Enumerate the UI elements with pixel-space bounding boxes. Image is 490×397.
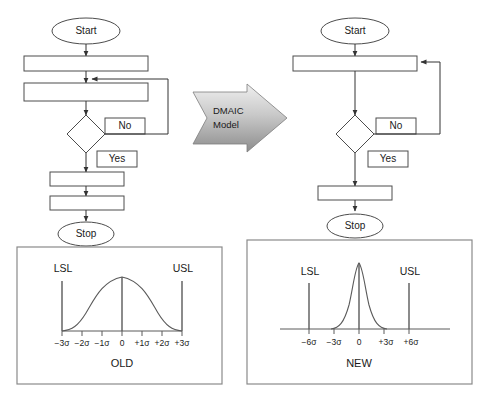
old-ticklabel-6: +3σ [175, 338, 191, 348]
old-ticklabel-0: −3σ [55, 338, 71, 348]
right-flowchart: Start No Yes Stop [293, 18, 440, 238]
left-flowchart: Start No Yes Stop [24, 18, 168, 246]
old-lsl-label: LSL [54, 262, 73, 274]
right-decision-diamond[interactable] [336, 115, 374, 153]
new-ticklabel-3: +3σ [379, 337, 395, 347]
old-ticklabel-2: −1σ [95, 338, 111, 348]
left-decision-diamond[interactable] [67, 115, 105, 153]
left-yes-label: Yes [109, 153, 125, 164]
left-process-box-2[interactable] [24, 83, 148, 101]
left-no-label: No [119, 120, 132, 131]
new-ticklabel-4: +6σ [404, 337, 420, 347]
diagram-svg: Start No Yes Stop DMAIC [0, 0, 490, 397]
right-process-box-2[interactable] [318, 186, 392, 200]
right-yes-label: Yes [380, 153, 396, 164]
right-process-box-1[interactable] [293, 56, 417, 71]
old-ticklabel-3: 0 [120, 338, 125, 348]
new-ticklabel-0: −6σ [302, 337, 318, 347]
dmaic-arrow-line1: DMAIC [213, 105, 244, 116]
dmaic-arrow-group[interactable]: DMAIC Model [193, 84, 287, 152]
left-process-box-3[interactable] [50, 172, 124, 186]
dmaic-arrow-line2: Model [213, 119, 239, 130]
old-ticklabel-5: +2σ [155, 338, 171, 348]
left-start-label: Start [75, 25, 96, 36]
new-distribution-panel: LSL USL −6σ −3σ 0 +3σ +6σ NEW [247, 240, 472, 384]
new-chart-title: NEW [346, 357, 372, 369]
old-distribution-panel: LSL USL −3σ −2σ −1σ 0 +1σ +2σ +3σ OLD [17, 247, 222, 384]
right-no-label: No [390, 120, 403, 131]
left-process-box-1[interactable] [24, 56, 148, 71]
right-start-label: Start [344, 25, 365, 36]
old-chart-title: OLD [111, 357, 134, 369]
new-ticklabel-1: −3σ [327, 337, 343, 347]
left-process-box-4[interactable] [50, 196, 124, 210]
left-stop-label: Stop [76, 228, 97, 239]
old-usl-label: USL [173, 262, 194, 274]
diagram-canvas: Start No Yes Stop DMAIC [0, 0, 490, 397]
new-lsl-label: LSL [301, 265, 320, 277]
old-ticklabel-4: +1σ [135, 338, 151, 348]
dmaic-arrow-icon [193, 84, 287, 152]
new-usl-label: USL [400, 265, 421, 277]
old-ticklabel-1: −2σ [75, 338, 91, 348]
new-ticklabel-2: 0 [357, 337, 362, 347]
right-stop-label: Stop [345, 220, 366, 231]
